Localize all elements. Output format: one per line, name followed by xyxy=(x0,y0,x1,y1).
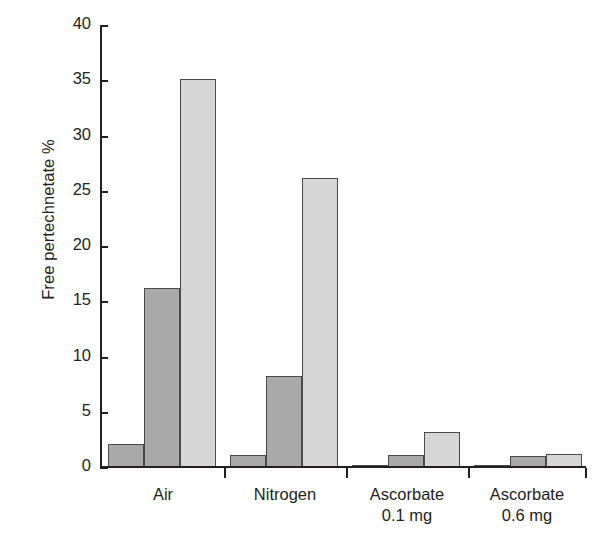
bar xyxy=(424,432,460,467)
y-axis-tick: 25 xyxy=(40,191,108,192)
y-axis-tick-label: 35 xyxy=(45,69,91,88)
x-axis-group-label-line: 0.6 mg xyxy=(452,505,602,526)
y-axis-tick: 5 xyxy=(40,412,108,413)
bar xyxy=(546,454,582,467)
bar xyxy=(144,288,180,467)
x-axis-group-label: Ascorbate0.6 mg xyxy=(452,484,602,526)
bar xyxy=(266,376,302,467)
y-axis-tick: 15 xyxy=(40,301,108,302)
y-axis-tick: 30 xyxy=(40,136,108,137)
y-axis-tick: 40 xyxy=(40,25,108,26)
y-axis-tick-label: 10 xyxy=(45,346,91,365)
y-axis-tick-label: 0 xyxy=(45,456,91,475)
bar xyxy=(108,444,144,467)
bar xyxy=(180,79,216,467)
y-axis-tick-label: 5 xyxy=(45,401,91,420)
x-axis-line xyxy=(100,466,586,468)
bar xyxy=(302,178,338,468)
y-axis-tick: 0 xyxy=(40,467,108,468)
x-axis-group-separator xyxy=(585,468,587,478)
x-axis-group-label-line: Ascorbate xyxy=(452,484,602,505)
y-axis-tick-label: 40 xyxy=(45,14,91,33)
y-axis-tick-label: 25 xyxy=(45,180,91,199)
x-axis-group-separator xyxy=(224,468,226,478)
x-axis-group-separator xyxy=(346,468,348,478)
plot-area xyxy=(102,25,584,467)
y-axis-tick: 35 xyxy=(40,80,108,81)
y-axis-tick-label: 30 xyxy=(45,125,91,144)
y-axis-tick-label: 20 xyxy=(45,235,91,254)
y-axis-tick: 10 xyxy=(40,357,108,358)
bar-chart: Free pertechnetate % 0510152025303540 Ai… xyxy=(0,0,603,537)
y-axis-tick-label: 15 xyxy=(45,290,91,309)
y-axis-tick: 20 xyxy=(40,246,108,247)
x-axis-group-separator xyxy=(468,468,470,478)
